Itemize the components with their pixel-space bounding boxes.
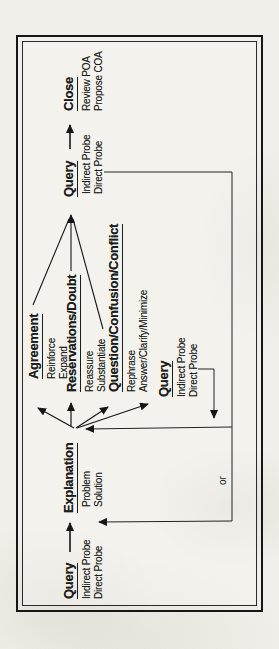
node-close-item: Propose COA — [93, 52, 105, 112]
node-explanation-title: Explanation — [61, 443, 78, 513]
fan-arrows-from-explanation — [38, 403, 148, 428]
node-explanation-item: Problem — [81, 443, 93, 507]
node-agreement-title: Agreement — [26, 314, 43, 379]
node-query-mid-item: Indirect Probe — [176, 338, 188, 397]
rotated-diagram: Query Indirect Probe Direct Probe Explan… — [0, 0, 279, 649]
node-question-confusion-conflict-item: Rephrase — [126, 224, 138, 392]
node-close: Close Review POA Propose COA — [59, 52, 104, 112]
node-query-mid-title: Query — [156, 361, 173, 397]
node-query-mid: Query Indirect Probe Direct Probe — [154, 338, 199, 397]
node-reservations-doubt-title: Reservations/Doubt — [64, 275, 81, 392]
node-explanation-item: Solution — [93, 443, 105, 507]
node-question-confusion-conflict-item: Answer/Clarify/Minimize — [138, 224, 150, 392]
node-reservations-doubt: Reservations/Doubt Reassure Substantiate — [62, 275, 107, 392]
scanned-page: Query Indirect Probe Direct Probe Explan… — [0, 0, 279, 649]
node-query-start-title: Query — [61, 563, 78, 599]
node-explanation: Explanation Problem Solution — [59, 443, 104, 513]
node-close-item: Review POA — [81, 52, 93, 112]
or-label: or — [217, 476, 228, 485]
node-query-end-item: Direct Probe — [93, 135, 105, 194]
node-query-end-title: Query — [61, 161, 78, 197]
node-query-start-item: Direct Probe — [93, 540, 105, 599]
node-query-end-item: Indirect Probe — [81, 135, 93, 194]
node-agreement-item: Reinforce — [46, 314, 58, 379]
node-close-title: Close — [61, 77, 78, 111]
node-reservations-doubt-item: Reassure — [84, 275, 96, 392]
node-question-confusion-conflict: Question/Confusion/Conflict Rephrase Ans… — [104, 224, 149, 392]
node-query-end: Query Indirect Probe Direct Probe — [59, 135, 104, 197]
node-query-start-item: Indirect Probe — [81, 540, 93, 599]
node-query-start: Query Indirect Probe Direct Probe — [59, 540, 104, 599]
node-question-confusion-conflict-title: Question/Confusion/Conflict — [106, 224, 123, 392]
node-query-mid-item: Direct Probe — [188, 338, 200, 397]
